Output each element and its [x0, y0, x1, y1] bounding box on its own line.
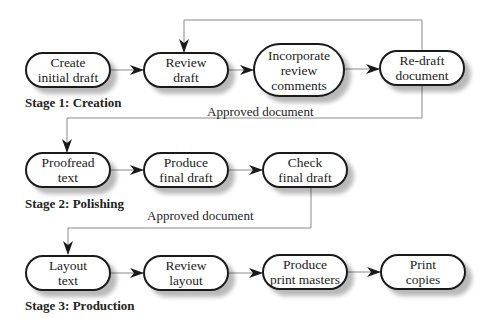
- node-print-copies: Print copies: [380, 254, 466, 290]
- node-review-draft: Review draft: [143, 52, 229, 88]
- node-proofread-text: Proofread text: [25, 152, 111, 188]
- approved-document-label-2: Approved document: [147, 208, 254, 224]
- node-incorporate-review-comments: Incorporate review comments: [253, 43, 345, 97]
- stage-2-label: Stage 2: Polishing: [25, 196, 124, 212]
- node-create-initial-draft: Create initial draft: [25, 52, 111, 88]
- node-produce-print-masters: Produce print masters: [262, 254, 348, 290]
- node-produce-final-draft: Produce final draft: [143, 152, 229, 188]
- node-check-final-draft: Check final draft: [262, 152, 348, 188]
- node-layout-text: Layout text: [25, 255, 111, 291]
- approved-document-label-1: Approved document: [207, 104, 314, 120]
- stage-3-label: Stage 3: Production: [25, 298, 135, 314]
- node-redraft-document: Re-draft document: [379, 50, 465, 86]
- node-review-layout: Review layout: [143, 255, 229, 291]
- stage-1-label: Stage 1: Creation: [25, 95, 122, 111]
